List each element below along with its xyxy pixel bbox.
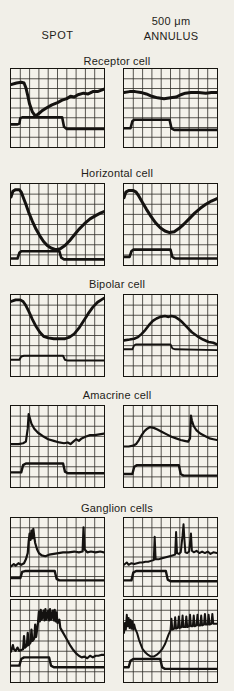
bipolar-panel-row: [10, 294, 234, 377]
ganglion-panel-row-2: [10, 599, 234, 683]
section-amacrine-cell: Amacrine cell: [0, 388, 234, 488]
graticule-grid: [11, 295, 104, 376]
receptor-panel-row: [10, 68, 234, 148]
horizontal-panel-row: [10, 183, 234, 266]
section-receptor-cell: Receptor cell: [0, 54, 234, 148]
graticule-grid: [124, 518, 217, 596]
graticule-grid: [11, 518, 104, 596]
panel-horizontal-spot: [10, 183, 105, 266]
column-header-annulus: 500 μm ANNULUS: [121, 14, 221, 44]
panel-receptor-spot: [10, 68, 105, 148]
graticule-grid: [11, 69, 104, 147]
panel-ganglion2-spot: [10, 599, 105, 683]
graticule-grid: [124, 69, 217, 147]
panel-receptor-annulus: [123, 68, 218, 148]
column-header-spot: SPOT: [10, 29, 105, 41]
ganglion-panel-row-1: [10, 517, 234, 597]
stimulus-trace: [124, 120, 217, 130]
section-bipolar-cell: Bipolar cell: [0, 277, 234, 377]
graticule-grid: [11, 406, 104, 487]
section-horizontal-cell: Horizontal cell: [0, 166, 234, 266]
column-headers: SPOT 500 μm ANNULUS: [0, 0, 234, 48]
panel-ganglion1-spot: [10, 517, 105, 597]
panel-amacrine-annulus: [123, 405, 218, 488]
panel-amacrine-spot: [10, 405, 105, 488]
panel-horizontal-annulus: [123, 183, 218, 266]
annulus-label: ANNULUS: [121, 29, 221, 44]
panel-ganglion1-annulus: [123, 517, 218, 597]
section-title-amacrine-cell: Amacrine cell: [0, 388, 234, 402]
graticule-grid: [11, 184, 104, 265]
section-title-bipolar-cell: Bipolar cell: [0, 277, 234, 291]
section-ganglion-cells: Ganglion cells: [0, 501, 234, 683]
section-title-ganglion-cells: Ganglion cells: [0, 501, 234, 515]
section-title-horizontal-cell: Horizontal cell: [0, 166, 234, 180]
annulus-size-label: 500 μm: [121, 14, 221, 29]
amacrine-panel-row: [10, 405, 234, 488]
retina-recordings-figure: SPOT 500 μm ANNULUS Receptor cell Horizo…: [0, 0, 234, 691]
panel-ganglion2-annulus: [123, 599, 218, 683]
panel-bipolar-spot: [10, 294, 105, 377]
panel-bipolar-annulus: [123, 294, 218, 377]
section-title-receptor-cell: Receptor cell: [0, 54, 234, 68]
